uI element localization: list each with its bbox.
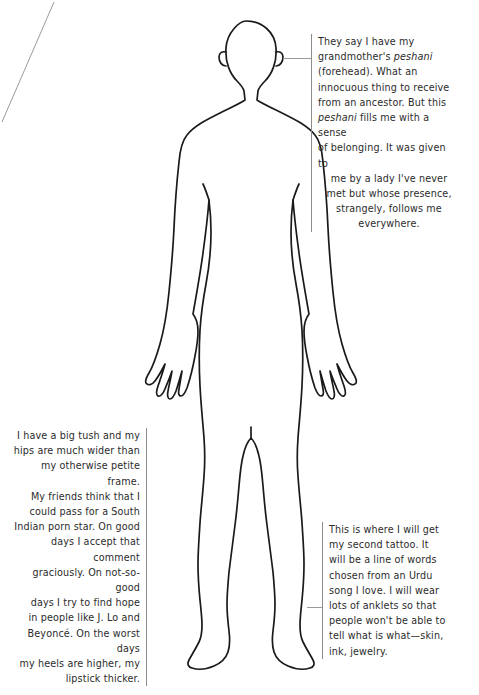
text-line: Beyoncé. On the worst days: [28, 628, 140, 654]
right-ear: [276, 52, 283, 66]
text-line: of belonging. It was given to: [318, 142, 446, 168]
text-line: everywhere.: [358, 218, 419, 229]
text-line: my otherwise petite frame.: [41, 460, 140, 486]
text-line: lots of anklets so that: [329, 600, 436, 611]
text-line: in people like J. Lo and: [28, 612, 140, 623]
text-line: innocuous thing to receive: [318, 82, 449, 93]
text-line: peshani fills me with a sense: [318, 112, 429, 138]
text-line: days I try to find hope: [31, 597, 140, 608]
annotation-ankle-body: This is where I will get my second tatto…: [329, 522, 459, 659]
text-line: met but whose presence,: [326, 188, 451, 199]
annotation-forehead-tail: me by a lady I've never met but whose pr…: [318, 171, 454, 232]
left-ear: [219, 52, 226, 66]
body-map-page: They say I have my grandmother's peshani…: [0, 0, 479, 695]
text-line: This is where I will get: [329, 524, 439, 535]
text-line: song I love. I will wear: [329, 585, 439, 596]
text-line: They say I have my: [318, 36, 414, 47]
text-line: I have a big tush and my: [17, 430, 140, 441]
text-line: my second tattoo. It: [329, 539, 429, 550]
text-line: days I accept that comment: [51, 536, 140, 562]
annotation-ankle: This is where I will get my second tatto…: [322, 522, 459, 659]
text-line: people won't be able to: [329, 615, 446, 626]
text-line: Indian porn star. On good: [14, 521, 140, 532]
text-line: me by a lady I've never: [331, 173, 447, 184]
text-line: (forehead). What an: [318, 66, 418, 77]
leader-line-ankle: [307, 607, 322, 608]
text-line: My friends think that I: [31, 491, 140, 502]
annotation-forehead-body: They say I have my grandmother's peshani…: [318, 34, 454, 171]
text-line: from an ancestor. But this: [318, 97, 446, 108]
right-armpit-line: [293, 184, 299, 200]
text-line: tell what is what—skin,: [329, 630, 443, 641]
annotation-hips-body: I have a big tush and my hips are much w…: [13, 428, 140, 686]
text-line: graciously. On not-so-good: [32, 567, 140, 593]
text-line: will be a line of words: [329, 554, 437, 565]
text-line: could pass for a South: [30, 506, 140, 517]
text-line: strangely, follows me: [336, 203, 442, 214]
annotation-forehead: They say I have my grandmother's peshani…: [311, 34, 454, 232]
text-line: ink, jewelry.: [329, 646, 388, 657]
annotation-hips: I have a big tush and my hips are much w…: [13, 428, 147, 686]
italic-term: peshani: [394, 51, 433, 62]
text-line: my heels are higher, my: [19, 658, 140, 669]
text-line: chosen from an Urdu: [329, 570, 432, 581]
text-line: hips are much wider than: [14, 445, 140, 456]
text-line: lipstick thicker.: [66, 673, 140, 684]
left-armpit-line: [203, 184, 209, 200]
text-line: grandmother's peshani: [318, 51, 433, 62]
italic-term: peshani: [318, 112, 357, 123]
leader-line-forehead: [283, 58, 311, 59]
